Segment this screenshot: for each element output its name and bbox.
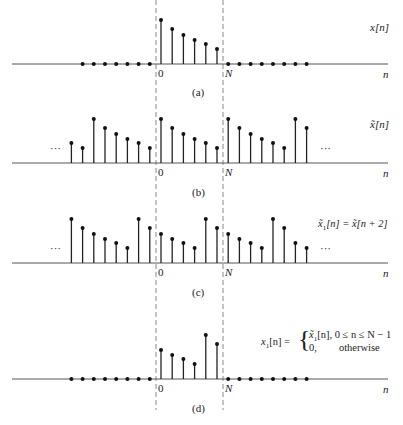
sample-dot bbox=[293, 377, 297, 381]
sample-dot bbox=[204, 141, 208, 145]
sample-dot bbox=[249, 377, 253, 381]
axis-label-n-b: n bbox=[383, 168, 389, 179]
sample-dot bbox=[305, 62, 309, 66]
axis-label-n-d: n bbox=[383, 384, 389, 395]
sample-dot bbox=[125, 62, 129, 66]
sample-dot bbox=[237, 62, 241, 66]
sample-dot bbox=[103, 377, 107, 381]
tick-zero-c: 0 bbox=[158, 267, 164, 278]
sample-dot bbox=[226, 62, 230, 66]
sample-dot bbox=[249, 241, 253, 245]
sample-dot bbox=[193, 362, 197, 366]
sample-dot bbox=[193, 137, 197, 141]
ellipsis-left-b: ··· bbox=[50, 143, 61, 154]
signal-label-a: x[n] bbox=[370, 22, 389, 33]
sample-dot bbox=[237, 126, 241, 130]
sample-dot bbox=[249, 62, 253, 66]
sample-dot bbox=[226, 232, 230, 236]
sample-dot bbox=[260, 137, 264, 141]
sample-dot bbox=[215, 47, 219, 51]
axis-label-n-a: n bbox=[383, 69, 389, 80]
sample-dot bbox=[81, 226, 85, 230]
caption-b: (b) bbox=[192, 186, 205, 198]
sample-dot bbox=[226, 117, 230, 121]
sample-dot bbox=[148, 377, 152, 381]
sample-dot bbox=[92, 62, 96, 66]
sample-dot bbox=[293, 117, 297, 121]
sample-dot bbox=[271, 217, 275, 221]
sample-dot bbox=[204, 217, 208, 221]
tick-N-d: N bbox=[225, 383, 232, 394]
sample-dot bbox=[125, 246, 129, 250]
sample-dot bbox=[92, 232, 96, 236]
sample-dot bbox=[293, 62, 297, 66]
sample-dot bbox=[181, 33, 185, 37]
sample-dot bbox=[282, 226, 286, 230]
dtfs-shift-diagram bbox=[0, 0, 403, 425]
sample-dot bbox=[159, 232, 163, 236]
sample-dot bbox=[193, 38, 197, 42]
sample-dot bbox=[69, 217, 73, 221]
sample-dot bbox=[148, 62, 152, 66]
sample-dot bbox=[92, 117, 96, 121]
caption-d: (d) bbox=[192, 402, 205, 414]
sample-dot bbox=[92, 377, 96, 381]
ellipsis-right-c: ··· bbox=[320, 243, 331, 254]
sample-dot bbox=[103, 62, 107, 66]
ellipsis-right-b: ··· bbox=[320, 143, 331, 154]
tick-N-a: N bbox=[225, 68, 232, 79]
sample-dot bbox=[103, 237, 107, 241]
sample-dot bbox=[293, 241, 297, 245]
sample-dot bbox=[159, 18, 163, 22]
sample-dot bbox=[137, 62, 141, 66]
signal-label-c: x̃1[n] = x̃[n + 2] bbox=[318, 219, 388, 232]
sample-dot bbox=[148, 146, 152, 150]
sample-dot bbox=[159, 348, 163, 352]
sample-dot bbox=[193, 246, 197, 250]
sample-dot bbox=[181, 132, 185, 136]
definition-equation-d: x1[n] = bbox=[261, 336, 290, 352]
sample-dot bbox=[159, 117, 163, 121]
sample-dot bbox=[271, 377, 275, 381]
sample-dot bbox=[170, 27, 174, 31]
sample-dot bbox=[137, 141, 141, 145]
sample-dot bbox=[114, 62, 118, 66]
sample-dot bbox=[125, 377, 129, 381]
sample-dot bbox=[125, 137, 129, 141]
sample-dot bbox=[237, 377, 241, 381]
sample-dot bbox=[114, 377, 118, 381]
stem-samples bbox=[69, 18, 308, 381]
period-boundary-lines bbox=[156, 0, 223, 410]
sample-dot bbox=[181, 241, 185, 245]
tick-zero-a: 0 bbox=[158, 68, 164, 79]
sample-dot bbox=[260, 246, 264, 250]
sample-dot bbox=[271, 141, 275, 145]
sample-dot bbox=[69, 377, 73, 381]
sample-dot bbox=[148, 226, 152, 230]
axis-label-n-c: n bbox=[383, 268, 389, 279]
sample-dot bbox=[69, 141, 73, 145]
sample-dot bbox=[282, 146, 286, 150]
sample-dot bbox=[282, 377, 286, 381]
caption-c: (c) bbox=[192, 286, 204, 298]
tick-zero-d: 0 bbox=[158, 383, 164, 394]
sample-dot bbox=[226, 377, 230, 381]
caption-a: (a) bbox=[192, 86, 204, 98]
sample-dot bbox=[260, 377, 264, 381]
sample-dot bbox=[170, 353, 174, 357]
sample-dot bbox=[137, 377, 141, 381]
sample-dot bbox=[237, 237, 241, 241]
sample-dot bbox=[282, 62, 286, 66]
sample-dot bbox=[181, 357, 185, 361]
sample-dot bbox=[170, 126, 174, 130]
sample-dot bbox=[204, 333, 208, 337]
tick-N-c: N bbox=[225, 267, 232, 278]
sample-dot bbox=[114, 241, 118, 245]
sample-dot bbox=[305, 246, 309, 250]
sample-dot bbox=[81, 377, 85, 381]
definition-case-2: 0,otherwise bbox=[309, 342, 380, 354]
tick-zero-b: 0 bbox=[158, 167, 164, 178]
sample-dot bbox=[114, 132, 118, 136]
ellipsis-left-c: ··· bbox=[50, 243, 61, 254]
sample-dot bbox=[215, 226, 219, 230]
